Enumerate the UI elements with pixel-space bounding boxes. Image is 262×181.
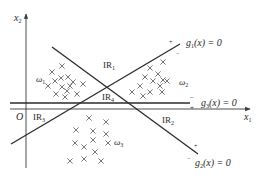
g2-line	[52, 47, 198, 154]
x2-axis-label: x2	[13, 12, 21, 24]
samples-omega3	[67, 115, 110, 163]
g2-neg-sign: −	[187, 155, 191, 161]
sample-cross-icon	[147, 89, 152, 94]
sample-cross-icon	[103, 119, 108, 124]
sample-cross-icon	[137, 83, 142, 88]
region-ir3: IR3	[33, 112, 45, 123]
g2-label: g2(x) = 0	[195, 157, 231, 169]
sample-cross-icon	[52, 78, 57, 83]
sample-cross-icon	[58, 75, 63, 80]
g3-neg-sign: −	[190, 94, 194, 102]
sample-cross-icon	[70, 79, 75, 84]
sample-cross-icon	[73, 127, 78, 132]
sample-cross-icon	[81, 156, 86, 161]
region-ir4: IR4	[102, 92, 114, 103]
sample-cross-icon	[160, 59, 165, 64]
sample-cross-icon	[86, 115, 91, 120]
origin-label: O	[16, 111, 23, 122]
boundary-g1: + − g1(x) = 0	[11, 37, 222, 144]
sample-cross-icon	[74, 91, 79, 96]
class-omega2: ω2	[179, 77, 188, 88]
g2-pos-sign: +	[194, 143, 198, 149]
sample-cross-icon	[90, 137, 95, 142]
sample-cross-icon	[164, 78, 169, 83]
g1-neg-sign: −	[176, 50, 180, 56]
sample-cross-icon	[62, 94, 67, 99]
sample-cross-icon	[140, 93, 145, 98]
boundary-g2: + − g2(x) = 0	[52, 47, 231, 169]
sample-cross-icon	[80, 81, 85, 86]
sample-cross-icon	[65, 74, 70, 79]
class-omega3: ω3	[114, 137, 123, 148]
region-ir1: IR1	[103, 60, 115, 71]
samples-omega1	[45, 63, 85, 99]
sample-cross-icon	[59, 63, 64, 68]
sample-cross-icon	[92, 149, 97, 154]
sample-cross-icon	[67, 83, 72, 88]
axes: x2 x1 O	[10, 12, 251, 168]
sample-cross-icon	[98, 158, 103, 163]
class-labels: ω1 ω2 ω3	[36, 74, 188, 148]
sample-cross-icon	[105, 140, 110, 145]
sample-cross-icon	[150, 78, 155, 83]
sample-cross-icon	[142, 74, 147, 79]
sample-cross-icon	[59, 84, 64, 89]
sample-cross-icon	[157, 83, 162, 88]
sample-cross-icon	[53, 91, 58, 96]
g3-label: g3(x) = 0	[201, 97, 237, 109]
sample-cross-icon	[155, 71, 160, 76]
sample-cross-icon	[103, 131, 108, 136]
sample-cross-icon	[45, 83, 50, 88]
samples-omega2	[129, 59, 169, 98]
sample-cross-icon	[64, 88, 69, 93]
sample-cross-icon	[67, 158, 72, 163]
sample-cross-icon	[81, 144, 86, 149]
g3-pos-sign: +	[190, 104, 194, 112]
sample-cross-icon	[90, 128, 95, 133]
sample-cross-icon	[72, 140, 77, 145]
g1-label: g1(x) = 0	[186, 37, 222, 49]
class-omega1: ω1	[36, 74, 45, 85]
x1-axis-label: x1	[243, 111, 251, 123]
sample-cross-icon	[147, 65, 152, 70]
region-ir2: IR2	[162, 115, 174, 126]
decision-regions-diagram: x2 x1 O − + g3(x) = 0 + − g1(x) = 0 + − …	[0, 0, 262, 181]
sample-cross-icon	[49, 69, 54, 74]
sample-cross-icon	[160, 77, 165, 82]
sample-cross-icon	[129, 89, 134, 94]
sample-cross-icon	[159, 89, 164, 94]
g1-pos-sign: +	[169, 39, 173, 45]
